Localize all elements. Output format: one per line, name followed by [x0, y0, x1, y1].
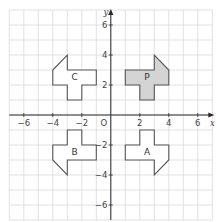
y-tick-label: 4 [102, 50, 107, 60]
x-tick-label: 2 [137, 118, 142, 128]
shape-p-label: P [144, 72, 150, 82]
shape-c: C [53, 55, 97, 100]
y-tick-label: −2 [95, 140, 108, 150]
y-tick-label: 6 [102, 20, 107, 30]
shape-b-label: B [71, 147, 77, 157]
shape-a-label: A [144, 147, 151, 157]
x-tick-label: −2 [76, 118, 89, 128]
x-tick-label: 6 [195, 118, 200, 128]
x-axis-arrow-icon [208, 112, 214, 117]
axis-labels: −6−4−2246642−2−4−6Oxy [18, 7, 215, 210]
origin-label: O [100, 118, 107, 128]
shape-b: B [53, 130, 97, 175]
x-axis-label: x [210, 118, 215, 128]
shape-p: P [125, 55, 169, 100]
y-tick-label: 2 [102, 80, 107, 90]
shape-c-label: C [71, 72, 77, 82]
coordinate-grid: PCBA −6−4−2246642−2−4−6Oxy [0, 0, 217, 222]
x-tick-label: −4 [47, 118, 60, 128]
y-tick-label: −4 [95, 170, 108, 180]
x-tick-label: 4 [166, 118, 171, 128]
y-tick-label: −6 [95, 200, 108, 210]
x-tick-label: −6 [18, 118, 31, 128]
y-axis-label: y [102, 7, 108, 17]
shape-a: A [125, 130, 169, 175]
